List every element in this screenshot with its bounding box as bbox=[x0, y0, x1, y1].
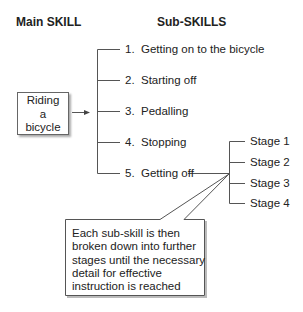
sub-skill-label: Starting off bbox=[141, 74, 196, 86]
stage-label: Stage 3 bbox=[250, 177, 290, 190]
sub-skill-item: 3. Pedalling bbox=[125, 105, 188, 118]
sub-skill-item: 2. Starting off bbox=[125, 74, 196, 87]
main-skill-box: Riding a bicycle bbox=[17, 92, 69, 135]
sub-skill-label: Getting on to the bicycle bbox=[141, 43, 264, 55]
stage-label: Stage 2 bbox=[250, 156, 290, 169]
sub-skill-number: 1. bbox=[125, 43, 135, 55]
stage-label: Stage 4 bbox=[250, 197, 290, 210]
sub-skill-label: Pedalling bbox=[141, 105, 188, 117]
sub-skill-item: 5. Getting off bbox=[125, 167, 194, 180]
main-skill-line: bicycle bbox=[18, 121, 68, 135]
sub-skill-item: 4. Stopping bbox=[125, 136, 186, 149]
sub-skill-item: 1. Getting on to the bicycle bbox=[125, 43, 264, 56]
sub-skill-label: Getting off bbox=[141, 167, 194, 179]
sub-skill-number: 3. bbox=[125, 105, 135, 117]
sub-skill-number: 4. bbox=[125, 136, 135, 148]
main-skill-line: Riding bbox=[18, 94, 68, 108]
callout-note: Each sub-skill is then broken down into … bbox=[72, 227, 214, 293]
main-skill-line: a bbox=[18, 108, 68, 122]
stage-label: Stage 1 bbox=[250, 135, 290, 148]
sub-skill-label: Stopping bbox=[141, 136, 186, 148]
sub-skill-number: 5. bbox=[125, 167, 135, 179]
sub-skill-number: 2. bbox=[125, 74, 135, 86]
arrow-head-icon bbox=[84, 110, 90, 115]
